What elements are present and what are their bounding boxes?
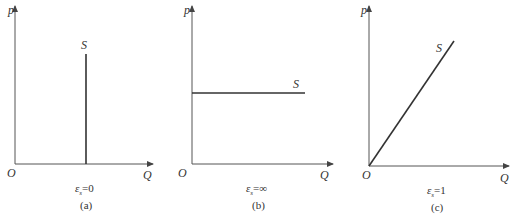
panel-c: p S O Q εs=1 (c) xyxy=(360,3,509,214)
elasticity-label: εs=1 xyxy=(427,184,446,199)
panel-caption: (c) xyxy=(431,201,444,214)
elasticity-label: εs=0 xyxy=(75,182,94,197)
supply-elasticity-figure: p S O Q εs=0 (a) p S O Q εs=∞ (b) p S O … xyxy=(0,0,514,219)
origin-label: O xyxy=(362,168,371,182)
supply-curve-diagonal xyxy=(369,41,454,166)
supply-curve-label: S xyxy=(293,77,299,91)
y-axis-label: p xyxy=(7,3,14,17)
supply-curve-label: S xyxy=(81,38,87,52)
supply-curve-label: S xyxy=(436,41,442,55)
origin-label: O xyxy=(178,166,187,180)
elasticity-label: εs=∞ xyxy=(246,182,267,197)
panel-b: p S O Q εs=∞ (b) xyxy=(178,3,333,212)
panel-caption: (b) xyxy=(252,199,265,212)
x-axis-label: Q xyxy=(320,168,329,182)
panel-caption: (a) xyxy=(80,199,93,212)
x-axis-label: Q xyxy=(500,171,509,185)
origin-label: O xyxy=(7,166,16,180)
y-axis-label: p xyxy=(183,3,190,17)
panel-a: p S O Q εs=0 (a) xyxy=(7,3,153,212)
y-axis-label: p xyxy=(360,3,367,17)
x-axis-label: Q xyxy=(143,168,152,182)
